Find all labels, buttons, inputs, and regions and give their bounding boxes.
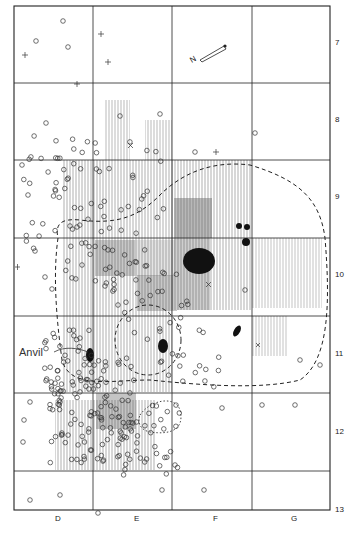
column-label-f: F bbox=[213, 514, 218, 523]
column-label-d: D bbox=[55, 514, 61, 523]
row-label-9: 9 bbox=[335, 192, 339, 201]
row-label-13: 13 bbox=[335, 505, 344, 514]
anvil-label: Anvil bbox=[19, 346, 43, 358]
row-label-7: 7 bbox=[335, 38, 339, 47]
column-label-g: G bbox=[291, 514, 297, 523]
hatch-lines bbox=[55, 100, 322, 470]
row-label-11: 11 bbox=[335, 349, 343, 358]
row-label-10: 10 bbox=[335, 270, 344, 279]
north-arrow-icon bbox=[200, 44, 227, 62]
row-label-8: 8 bbox=[335, 115, 339, 124]
row-label-12: 12 bbox=[335, 427, 344, 436]
column-label-e: E bbox=[134, 514, 139, 523]
site-plan bbox=[0, 0, 356, 534]
